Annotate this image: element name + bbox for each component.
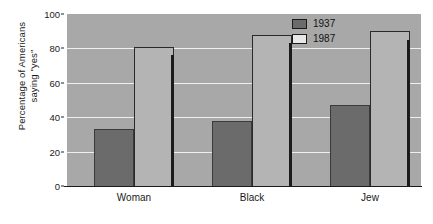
chart-legend: 19371987 xyxy=(289,14,355,48)
y-tick-mark xyxy=(61,151,64,152)
group-separator-bar xyxy=(289,43,292,186)
y-axis-title-line-1: Percentage of Americans xyxy=(16,22,28,130)
bar-1987-jew xyxy=(370,31,410,186)
bar-1937-black xyxy=(212,121,252,186)
white-swatch xyxy=(292,34,307,44)
y-tick-label: 0 xyxy=(55,181,60,192)
legend-item-1987: 1987 xyxy=(292,31,352,46)
y-tick-label: 100 xyxy=(44,9,60,20)
y-axis-ticks: 020406080100 xyxy=(34,8,64,192)
plot-area xyxy=(67,14,421,186)
x-axis-label-black: Black xyxy=(240,192,264,203)
legend-label: 1987 xyxy=(313,33,335,44)
gridline xyxy=(67,48,421,49)
gridline xyxy=(67,83,421,84)
group-separator-bar xyxy=(407,40,410,186)
y-tick-label: 60 xyxy=(49,77,60,88)
y-tick-mark xyxy=(61,48,64,49)
x-axis-labels: WomanBlackJew xyxy=(67,192,421,212)
dark-gray-swatch xyxy=(292,19,307,29)
y-tick-label: 20 xyxy=(49,146,60,157)
bar-1937-woman xyxy=(94,129,134,186)
group-separator-bar xyxy=(171,55,174,186)
y-tick-label: 40 xyxy=(49,112,60,123)
y-tick-mark xyxy=(61,117,64,118)
y-tick-label: 80 xyxy=(49,43,60,54)
x-axis-label-woman: Woman xyxy=(117,192,151,203)
bar-1937-jew xyxy=(330,105,370,186)
bar-1987-black xyxy=(252,35,292,186)
x-axis-label-jew: Jew xyxy=(361,192,379,203)
y-tick-mark xyxy=(61,14,64,15)
legend-item-1937: 1937 xyxy=(292,16,352,31)
bar-chart: Percentage of Americans saying "yes" 020… xyxy=(0,0,433,224)
bar-1987-woman xyxy=(134,47,174,186)
legend-label: 1937 xyxy=(313,18,335,29)
y-tick-mark xyxy=(61,82,64,83)
x-axis-line xyxy=(64,186,422,187)
